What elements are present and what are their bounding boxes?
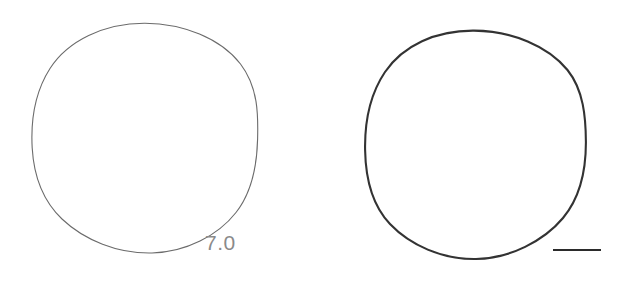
right-circle-outline	[365, 31, 586, 259]
left-circle-outline	[32, 23, 258, 253]
figure-canvas: 7.0	[0, 0, 624, 289]
right-panel-group	[365, 31, 601, 259]
figure-vector-layer	[0, 0, 624, 289]
left-panel-group	[32, 23, 258, 253]
left-circle-diameter-label: 7.0	[205, 232, 236, 253]
